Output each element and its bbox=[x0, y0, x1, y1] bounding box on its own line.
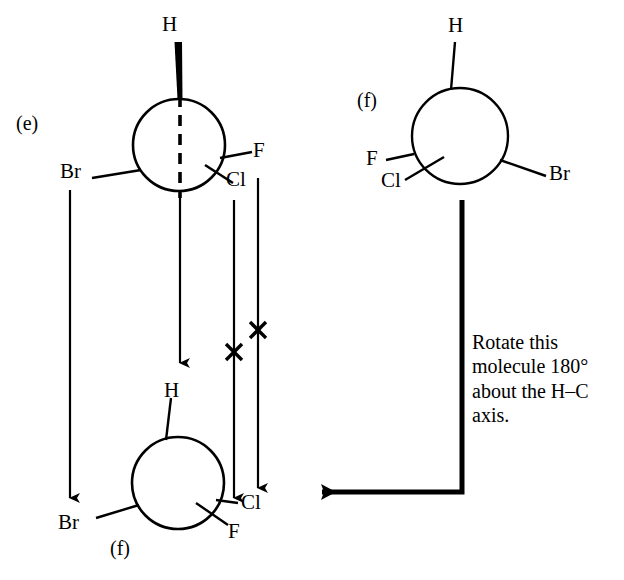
bond-f-f-top bbox=[386, 154, 414, 160]
molecule-f-bottom bbox=[96, 398, 238, 529]
bond-br-f-bottom bbox=[96, 505, 139, 518]
bond-br-e bbox=[92, 170, 141, 178]
bond-cl-f-top bbox=[405, 157, 444, 180]
atom-label-e-cl: Cl bbox=[226, 169, 246, 190]
bond-br-f-top bbox=[500, 160, 546, 176]
atom-label-f-bottom-cl: Cl bbox=[241, 492, 261, 513]
rotation-flow-arrow bbox=[322, 200, 462, 492]
newman-circle-f-bottom bbox=[132, 437, 224, 529]
instruction-line-1: Rotate this bbox=[472, 330, 622, 354]
newman-circle-f-top bbox=[412, 88, 508, 184]
atom-label-f-top-h: H bbox=[448, 15, 463, 36]
instruction-line-3: about the H–C bbox=[472, 379, 622, 403]
atom-label-e-h: H bbox=[162, 14, 177, 35]
atom-label-f-top-br: Br bbox=[549, 163, 570, 184]
bond-h-f-bottom bbox=[166, 398, 171, 440]
figure-canvas: (e) (f) (f) H Br F Cl H F Cl Br H Br Cl … bbox=[0, 0, 624, 580]
atom-label-e-f: F bbox=[253, 140, 265, 161]
atom-label-f-top-cl: Cl bbox=[381, 170, 401, 191]
atom-label-f-top-f: F bbox=[366, 148, 378, 169]
molecule-diagram bbox=[0, 0, 624, 580]
molecule-f-top bbox=[386, 42, 546, 184]
part-label-e: (e) bbox=[16, 113, 38, 133]
atom-label-f-bottom-f: F bbox=[228, 521, 240, 542]
part-label-f-bottom: (f) bbox=[110, 538, 130, 558]
atom-label-f-bottom-h: H bbox=[164, 380, 179, 401]
rotation-instruction: Rotate this molecule 180° about the H–C … bbox=[472, 330, 622, 428]
bond-h-f-top bbox=[451, 42, 455, 90]
instruction-line-4: axis. bbox=[472, 403, 622, 427]
atom-label-f-bottom-br: Br bbox=[58, 512, 79, 533]
instruction-line-2: molecule 180° bbox=[472, 354, 622, 378]
part-label-f-top: (f) bbox=[357, 90, 377, 110]
atom-label-e-br: Br bbox=[60, 161, 81, 182]
